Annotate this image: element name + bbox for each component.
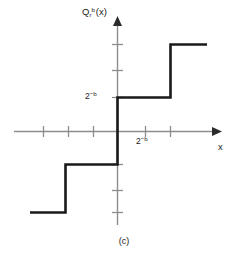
y-axis-label-superscript: b — [91, 6, 94, 13]
quantizer-figure: Qrb(x) 2−b 2−b x (c) — [0, 0, 248, 261]
y-tick-label-2-neg-b: 2−b — [85, 91, 97, 100]
x-tick-label-2-neg-b: 2−b — [136, 136, 148, 145]
step-function-plot — [0, 0, 248, 261]
quantizer-staircase-curve — [30, 45, 207, 213]
y-tick-exponent: −b — [90, 90, 97, 97]
y-axis-label: Qrb(x) — [82, 7, 107, 18]
x-axis-name: x — [218, 142, 223, 152]
y-axis-arrowhead — [113, 16, 122, 26]
x-tick-exponent: −b — [141, 135, 148, 142]
y-axis-label-argument: (x) — [96, 6, 107, 17]
x-axis-arrowhead — [212, 127, 222, 136]
figure-caption: (c) — [0, 237, 248, 246]
